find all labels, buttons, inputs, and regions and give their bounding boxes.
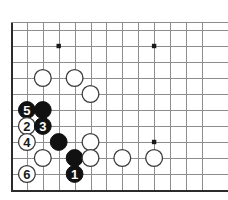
stone-white-disc <box>82 86 99 103</box>
stone-white-d[interactable] <box>82 134 99 151</box>
stone-white-disc <box>146 150 163 167</box>
move-number-label: 5 <box>23 103 30 118</box>
stone-white-a[interactable] <box>34 70 51 87</box>
move-number-label: 4 <box>23 135 31 150</box>
stone-white-move-6[interactable]: 6 <box>19 166 36 183</box>
stone-black-move-5[interactable]: 5 <box>19 102 36 119</box>
star-point-upper-left <box>57 44 61 48</box>
stone-black-f[interactable] <box>66 150 83 167</box>
star-point-lower-right <box>152 140 156 144</box>
star-point-upper-right <box>152 44 156 48</box>
stone-black-d[interactable] <box>34 102 51 119</box>
stone-white-disc <box>82 134 99 151</box>
stone-black-move-1[interactable]: 1 <box>66 166 83 183</box>
stone-black-disc <box>34 102 51 119</box>
stone-black-move-3[interactable]: 3 <box>34 118 51 135</box>
go-board-diagram: 523461 <box>0 0 228 200</box>
move-number-label: 6 <box>23 167 30 182</box>
stone-black-disc <box>66 150 83 167</box>
star-point-mark <box>57 44 61 48</box>
stone-white-disc <box>34 150 51 167</box>
stone-white-move-2[interactable]: 2 <box>19 118 36 135</box>
stone-white-g[interactable] <box>114 150 131 167</box>
stone-white-c[interactable] <box>82 86 99 103</box>
stone-black-disc <box>50 134 67 151</box>
stone-white-e[interactable] <box>34 150 51 167</box>
star-point-mark <box>152 44 156 48</box>
star-point-mark <box>152 140 156 144</box>
stone-white-disc <box>34 70 51 87</box>
stone-white-f[interactable] <box>82 150 99 167</box>
stone-black-e[interactable] <box>50 134 67 151</box>
stone-white-h[interactable] <box>146 150 163 167</box>
stone-white-disc <box>114 150 131 167</box>
move-number-label: 2 <box>23 119 30 134</box>
stone-white-disc <box>66 70 83 87</box>
stone-white-disc <box>82 150 99 167</box>
stone-white-b[interactable] <box>66 70 83 87</box>
move-number-label: 1 <box>71 167 78 182</box>
go-board-canvas: 523461 <box>0 0 228 200</box>
move-number-label: 3 <box>39 119 46 134</box>
stone-white-move-4[interactable]: 4 <box>19 134 36 151</box>
